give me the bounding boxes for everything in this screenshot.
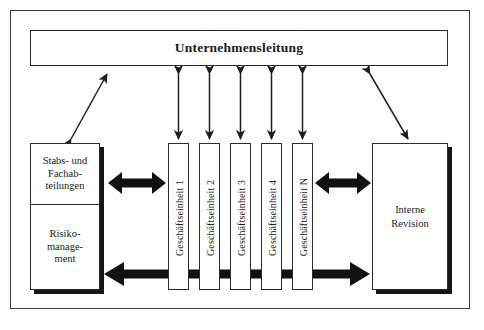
bar-geschaeftseinheit-4[interactable]: Geschäftseinheit 4 xyxy=(261,143,282,290)
bar-geschaeftseinheit-1[interactable]: Geschäftseinheit 1 xyxy=(168,143,189,290)
bar-geschaeftseinheit-2[interactable]: Geschäftseinheit 2 xyxy=(199,143,220,290)
geschaeftseinheit-3-label: Geschäftseinheit 3 xyxy=(236,180,247,256)
risikomanagement-label: Risiko- manage- ment xyxy=(47,228,83,265)
bar-geschaeftseinheit-3[interactable]: Geschäftseinheit 3 xyxy=(230,143,251,290)
unternehmensleitung-label: Unternehmensleitung xyxy=(175,40,303,56)
bar-label-wrap-2: Geschäftseinheit 2 xyxy=(200,144,221,291)
box-interne-revision[interactable]: Interne Revision xyxy=(372,143,448,290)
organizational-diagram: Unternehmensleitung Stabs- und Fachab- t… xyxy=(0,0,484,330)
cell-stabs-und-fachabteilungen[interactable]: Stabs- und Fachab- teilungen xyxy=(31,144,99,205)
bar-label-wrap-1: Geschäftseinheit 1 xyxy=(169,144,190,291)
bar-label-wrap-3: Geschäftseinheit 3 xyxy=(231,144,252,291)
box-unternehmensleitung[interactable]: Unternehmensleitung xyxy=(30,30,448,66)
box-stabs-risiko-stack[interactable]: Stabs- und Fachab- teilungen Risiko- man… xyxy=(30,143,100,290)
cell-risikomanagement[interactable]: Risiko- manage- ment xyxy=(31,205,99,289)
stabs-fachabteilungen-label: Stabs- und Fachab- teilungen xyxy=(43,155,88,192)
geschaeftseinheit-n-label: Geschäftseinheit N xyxy=(298,178,309,256)
interne-revision-label: Interne Revision xyxy=(391,203,428,229)
geschaeftseinheit-1-label: Geschäftseinheit 1 xyxy=(174,180,185,256)
geschaeftseinheit-2-label: Geschäftseinheit 2 xyxy=(205,180,216,256)
bar-label-wrap-4: Geschäftseinheit 4 xyxy=(262,144,283,291)
geschaeftseinheit-4-label: Geschäftseinheit 4 xyxy=(267,180,278,256)
bar-geschaeftseinheit-n[interactable]: Geschäftseinheit N xyxy=(292,143,313,290)
bar-label-wrap-n: Geschäftseinheit N xyxy=(293,144,314,291)
